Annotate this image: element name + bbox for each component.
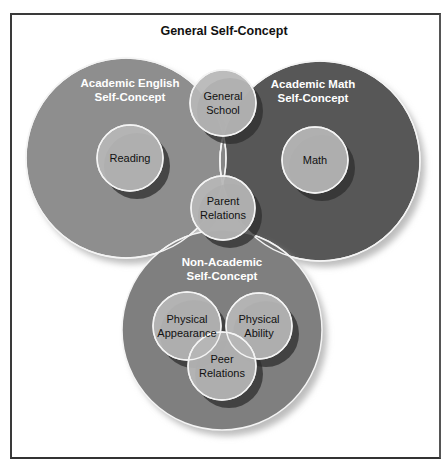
- parent-relations-label: Parent: [207, 195, 239, 207]
- general-school-label: General: [203, 90, 242, 102]
- math-label-line2: Self-Concept: [278, 92, 349, 104]
- general-school-label: School: [206, 104, 240, 116]
- peer-relations-label: Peer: [210, 353, 234, 365]
- physical-ability-label: Ability: [244, 327, 274, 339]
- venn-diagram: Academic English Self-Concept Academic M…: [0, 0, 448, 471]
- physical-ability-label: Physical: [239, 313, 280, 325]
- physical-appearance-label: Physical: [167, 313, 208, 325]
- diagram-canvas: General Self-Concept: [0, 0, 448, 471]
- nonacademic-label-line1: Non-Academic: [182, 256, 263, 268]
- peer-relations-label: Relations: [199, 367, 245, 379]
- nonacademic-label-line2: Self-Concept: [187, 270, 258, 282]
- parent-relations-label: Relations: [200, 209, 246, 221]
- english-label-line2: Self-Concept: [95, 91, 166, 103]
- math-label-line1: Academic Math: [271, 78, 355, 90]
- reading-label: Reading: [110, 152, 151, 164]
- english-label-line1: Academic English: [80, 77, 179, 89]
- physical-appearance-label: Appearance: [157, 327, 216, 339]
- math-sub-label: Math: [303, 154, 327, 166]
